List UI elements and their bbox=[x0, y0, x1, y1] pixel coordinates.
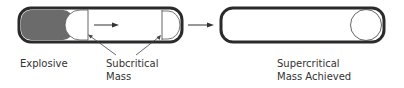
subcritical-label-line2: Mass bbox=[106, 70, 176, 83]
explosive-label: Explosive bbox=[20, 57, 68, 70]
supercritical-label-line1: Supercritical bbox=[277, 57, 387, 70]
subcritical-label-line1: Subcritical bbox=[106, 57, 176, 70]
subcritical-mass-label: Subcritical Mass bbox=[106, 57, 176, 83]
supercritical-label-line2: Mass Achieved bbox=[277, 70, 387, 83]
supercritical-label: Supercritical Mass Achieved bbox=[277, 57, 387, 83]
transition-arrow bbox=[188, 23, 214, 28]
barrel-after bbox=[221, 8, 384, 42]
explosive-label-text: Explosive bbox=[20, 57, 68, 70]
barrel-outline bbox=[221, 8, 384, 42]
arrow-right-icon bbox=[207, 23, 214, 28]
